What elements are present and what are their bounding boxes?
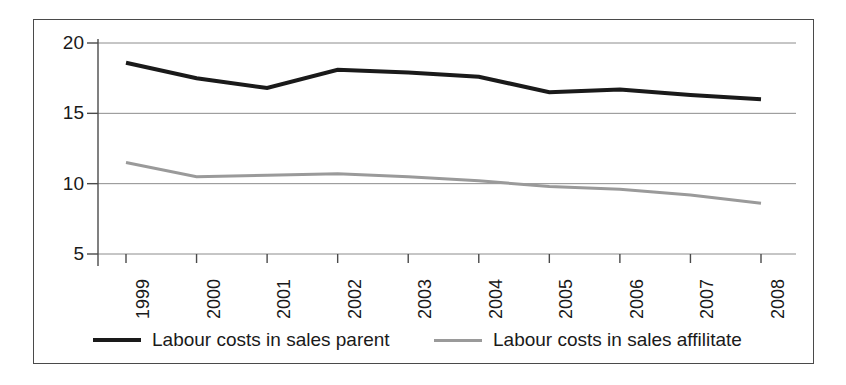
x-axis-label-2001: 2001 [275,279,293,319]
legend-swatch-parent-icon [93,338,141,342]
chart-screenshot: 2015105 19992000200120022003200420052006… [0,0,846,385]
series-line-affiliate [126,163,761,204]
legend-label-affiliate: Labour costs in sales affilitate [493,329,742,351]
series-line-parent [126,63,761,100]
x-axis-label-2002: 2002 [346,279,364,319]
x-axis-label-1999: 1999 [134,279,152,319]
y-axis-label-5: 5 [50,244,84,263]
chart-legend: Labour costs in sales parent Labour cost… [34,326,815,364]
x-axis-label-2007: 2007 [698,279,716,319]
x-axis-label-2006: 2006 [628,279,646,319]
legend-label-parent: Labour costs in sales parent [152,329,390,351]
figure-frame: 2015105 19992000200120022003200420052006… [33,19,814,364]
y-axis-label-15: 15 [50,103,84,122]
x-axis-label-2004: 2004 [487,279,505,319]
legend-swatch-affiliate-icon [434,339,482,342]
legend-item-parent[interactable]: Labour costs in sales parent [93,328,390,352]
x-axis-label-2000: 2000 [205,279,223,319]
x-axis-label-2003: 2003 [416,279,434,319]
y-axis-label-10: 10 [50,174,84,193]
x-axis-label-2008: 2008 [769,279,787,319]
y-axis-label-20: 20 [50,33,84,52]
legend-item-affiliate[interactable]: Labour costs in sales affilitate [434,328,742,352]
x-axis-label-2005: 2005 [557,279,575,319]
